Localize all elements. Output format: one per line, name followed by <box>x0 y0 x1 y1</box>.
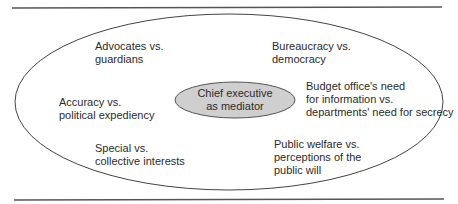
tension-special-collective: Special vs. collective interests <box>95 142 185 168</box>
top-rule <box>12 7 442 8</box>
center-line-1: Chief executive <box>175 87 295 100</box>
tension-line: public will <box>274 164 361 177</box>
tension-accuracy-expediency: Accuracy vs. political expediency <box>59 96 154 122</box>
tension-line: democracy <box>272 53 351 66</box>
bottom-rule <box>14 199 444 200</box>
tension-line: Advocates vs. <box>95 40 163 53</box>
tension-line: Public welfare vs. <box>274 138 361 151</box>
tension-bureaucracy-democracy: Bureaucracy vs. democracy <box>272 40 351 66</box>
tension-line: departments' need for secrecy <box>306 106 454 119</box>
tension-line: guardians <box>95 53 163 66</box>
tension-budget-secrecy: Budget office's need for information vs.… <box>306 80 454 119</box>
tension-line: for information vs. <box>306 93 454 106</box>
tension-line: Accuracy vs. <box>59 96 154 109</box>
tension-advocates-guardians: Advocates vs. guardians <box>95 40 163 66</box>
tension-line: collective interests <box>95 155 185 168</box>
tension-line: Special vs. <box>95 142 185 155</box>
tension-line: Budget office's need <box>306 80 454 93</box>
center-line-2: as mediator <box>175 100 295 113</box>
tension-welfare-public-will: Public welfare vs. perceptions of the pu… <box>274 138 361 177</box>
tension-line: perceptions of the <box>274 151 361 164</box>
center-node: Chief executive as mediator <box>175 87 295 113</box>
tension-line: political expediency <box>59 109 154 122</box>
tension-line: Bureaucracy vs. <box>272 40 351 53</box>
